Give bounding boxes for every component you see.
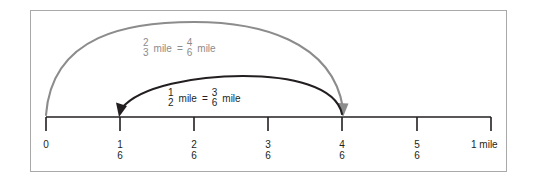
black-label-word-one: mile (179, 93, 197, 104)
tick-label-2-6: 2 6 (179, 139, 209, 161)
tick-label-5-6-numerator: 5 (402, 139, 432, 150)
gray-label-equals-sign: = (177, 43, 183, 54)
tick-label-4-6-numerator: 4 (327, 139, 357, 150)
tick-label-1-mile: 1 mile (471, 139, 498, 150)
tick-label-5-6-denominator: 6 (402, 150, 432, 161)
black-label-equals-sign: = (202, 93, 208, 104)
tick-label-4-6: 4 6 (327, 139, 357, 161)
black-equivalence-label: 1 2 mile = 3 6 mile (166, 88, 244, 108)
tick-label-0-numerator: 0 (31, 139, 61, 150)
gray-label-fraction-two: 4 6 (187, 38, 193, 58)
tick-label-3-6: 3 6 (253, 139, 283, 161)
black-label-fraction-one: 1 2 (168, 88, 174, 108)
tick-label-3-6-denominator: 6 (253, 150, 283, 161)
gray-label-frac2-denominator: 6 (187, 48, 193, 58)
tick-label-5-6: 5 6 (402, 139, 432, 161)
gray-equivalence-label: 2 3 mile = 4 6 mile (141, 38, 219, 58)
tick-label-3-6-numerator: 3 (253, 139, 283, 150)
black-label-fraction-two: 3 6 (212, 88, 218, 108)
tick-label-4-6-denominator: 6 (327, 150, 357, 161)
gray-label-frac1-denominator: 3 (143, 48, 149, 58)
tick-label-0: 0 (31, 139, 61, 150)
tick-label-1-6-denominator: 6 (105, 150, 135, 161)
gray-label-word-one: mile (154, 43, 172, 54)
black-label-frac2-denominator: 6 (212, 98, 218, 108)
tick-label-2-6-numerator: 2 (179, 139, 209, 150)
gray-label-word-two: mile (197, 43, 215, 54)
tick-label-2-6-denominator: 6 (179, 150, 209, 161)
black-label-frac1-denominator: 2 (168, 98, 174, 108)
black-label-word-two: mile (222, 93, 240, 104)
tick-label-1-6-numerator: 1 (105, 139, 135, 150)
tick-label-1-6: 1 6 (105, 139, 135, 161)
number-line-figure: 2 3 mile = 4 6 mile 1 2 mile = 3 6 mile … (0, 0, 539, 188)
gray-label-fraction-one: 2 3 (143, 38, 149, 58)
